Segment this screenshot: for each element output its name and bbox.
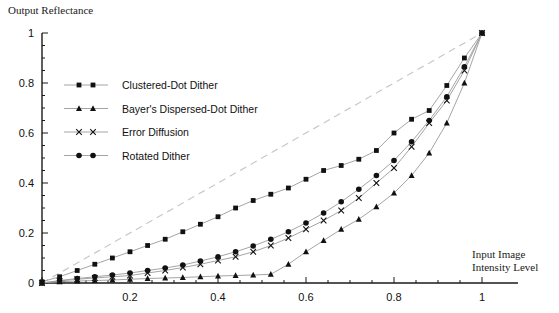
reference-line [42,33,482,283]
chart-legend: Clustered-Dot DitherBayer's Dispersed-Do… [64,79,258,162]
marker-circle [74,276,80,282]
marker-cross [338,208,344,214]
dither-transfer-function-chart: Output Reflectance Input Image Intensity… [0,0,559,313]
y-tick-label: 0 [28,277,34,289]
marker-square [268,192,273,197]
y-axis-title: Output Reflectance [8,4,93,16]
marker-circle [286,229,292,235]
axes [42,33,518,283]
marker-triangle [285,261,291,267]
legend-item-error-diffusion: Error Diffusion [64,126,189,138]
marker-circle [426,118,432,124]
y-tick-label: 0.2 [19,227,34,239]
x-tick-label: 1 [479,291,485,303]
marker-square [75,268,80,273]
marker-circle [303,220,309,226]
marker-circle [479,30,485,36]
marker-circle [39,280,45,286]
x-tick-label: 0.8 [386,291,401,303]
legend-label: Error Diffusion [122,126,189,138]
marker-circle [76,153,82,159]
marker-circle [356,186,362,192]
x-tick-label: 0.2 [122,291,137,303]
marker-cross [303,226,309,232]
marker-circle [338,199,344,205]
marker-circle [92,274,98,280]
marker-square [251,198,256,203]
y-tick-label: 0.6 [19,127,34,139]
marker-triangle [356,216,362,222]
marker-triangle [338,226,344,232]
marker-circle [145,268,151,274]
marker-square [286,186,291,191]
marker-square [145,243,150,248]
legend-label: Rotated Dither [122,150,190,162]
marker-square [356,157,361,162]
marker-square [198,222,203,227]
legend-item-clustered-dot-dither: Clustered-Dot Dither [64,79,218,91]
marker-square [128,249,133,254]
marker-circle [110,272,116,278]
marker-square [163,237,168,242]
marker-square [427,108,432,113]
y-tick-label: 1 [28,27,34,39]
marker-circle [198,258,204,264]
marker-cross [321,218,327,224]
marker-square [77,83,82,88]
marker-cross [286,235,292,241]
x-axis-title-line2: Intensity Level [472,261,538,273]
marker-triangle [444,120,450,126]
marker-circle [321,210,327,216]
marker-triangle [373,204,379,210]
ideal-linear-reference-line [42,33,482,283]
marker-circle [444,94,450,100]
marker-square [374,148,379,153]
marker-circle [462,64,468,70]
legend-label: Clustered-Dot Dither [122,79,218,91]
marker-square [339,163,344,168]
marker-square [392,131,397,136]
marker-circle [250,243,256,249]
marker-triangle [461,80,467,86]
marker-circle [268,236,274,242]
marker-cross [409,144,415,150]
marker-triangle [426,150,432,156]
chart-canvas: Output Reflectance Input Image Intensity… [0,0,559,313]
marker-circle [127,270,133,276]
marker-circle [180,262,186,268]
marker-cross [356,195,362,201]
marker-triangle [303,249,309,255]
y-tick-label: 0.8 [19,77,34,89]
marker-circle [391,158,397,164]
marker-square [180,229,185,234]
marker-circle [57,278,63,284]
marker-triangle [321,237,327,243]
marker-circle [409,139,415,145]
marker-triangle [268,271,274,277]
marker-circle [215,254,221,260]
marker-cross [374,180,380,186]
marker-cross [250,249,256,255]
marker-square [91,83,96,88]
marker-circle [233,249,239,255]
marker-cross [391,165,397,171]
x-axis-title-line1: Input Image [472,248,526,260]
legend-label: Bayer's Dispersed-Dot Dither [122,103,258,115]
marker-square [462,56,467,61]
tick-labels: 0.20.40.60.8100.20.40.60.81 [19,27,485,303]
y-tick-label: 0.4 [19,177,34,189]
marker-circle [374,173,380,179]
marker-circle [90,153,96,159]
legend-item-bayer-s-dispersed-dot-dither: Bayer's Dispersed-Dot Dither [64,103,258,115]
marker-square [110,256,115,261]
marker-square [304,177,309,182]
legend-item-rotated-dither: Rotated Dither [64,150,190,162]
marker-cross [268,243,274,249]
marker-square [321,168,326,173]
marker-square [444,83,449,88]
marker-square [92,262,97,267]
marker-circle [162,265,168,271]
x-tick-label: 0.4 [210,291,225,303]
marker-square [409,117,414,122]
marker-square [233,206,238,211]
